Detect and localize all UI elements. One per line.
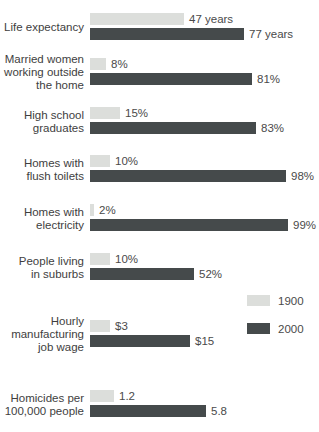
bar-chart-figure: Life expectancy47 years77 yearsMarried w… xyxy=(0,0,319,432)
category-label: Married womenworking outsidethe home xyxy=(0,59,84,86)
bar-value-label: 8% xyxy=(111,58,128,70)
bar-2000 xyxy=(90,405,206,417)
category-label-line: Homicides per xyxy=(0,392,84,405)
bar-value-label: 2% xyxy=(99,204,116,216)
category-label-line: graduates xyxy=(0,122,84,135)
bar-2000 xyxy=(90,268,194,280)
category-label-line: High school xyxy=(0,109,84,122)
category-label-line: job wage xyxy=(0,341,84,354)
bar-row-1900: 47 years xyxy=(90,13,293,25)
category-label: People livingin suburbs xyxy=(0,254,84,281)
bar-1900 xyxy=(90,320,110,332)
legend-label-2000: 2000 xyxy=(278,323,304,335)
bar-value-label: 15% xyxy=(125,107,148,119)
category-label-line: Married women xyxy=(0,53,84,66)
chart-row: Married womenworking outsidethe home8%81… xyxy=(0,58,319,85)
bar-row-2000: $15 xyxy=(90,335,214,347)
chart-row: People livingin suburbs10%52% xyxy=(0,253,319,280)
category-label-line: 100,000 people xyxy=(0,405,84,418)
bar-1900 xyxy=(90,390,114,402)
bar-1900 xyxy=(90,253,110,265)
category-label: Homes withflush toilets xyxy=(0,156,84,183)
legend-item-2000: 2000 xyxy=(247,323,304,334)
chart-row: Life expectancy47 years77 years xyxy=(0,13,319,40)
bar-1900 xyxy=(90,13,184,25)
category-label-line: Homes with xyxy=(0,206,84,219)
bar-value-label: 1.2 xyxy=(119,390,135,402)
legend-label-1900: 1900 xyxy=(278,295,304,307)
category-label: Life expectancy xyxy=(0,14,84,41)
category-label-line: in suburbs xyxy=(0,268,84,281)
bar-value-label: 98% xyxy=(291,170,314,182)
legend-swatch-1900-icon xyxy=(247,295,270,306)
bar-value-label: 99% xyxy=(293,219,316,231)
legend: 1900 2000 xyxy=(247,295,304,351)
bar-pair: 10%98% xyxy=(90,155,314,185)
bar-pair: 1.25.8 xyxy=(90,390,227,420)
bar-value-label: 47 years xyxy=(189,13,233,25)
category-label-line: Life expectancy xyxy=(0,21,84,34)
bar-2000 xyxy=(90,122,256,134)
bar-pair: 47 years77 years xyxy=(90,13,293,43)
bar-1900 xyxy=(90,58,106,70)
bar-row-2000: 52% xyxy=(90,268,222,280)
category-label: Homicides per100,000 people xyxy=(0,391,84,418)
bar-pair: 2%99% xyxy=(90,204,316,234)
category-label-line: Homes with xyxy=(0,157,84,170)
category-label-line: electricity xyxy=(0,219,84,232)
bar-2000 xyxy=(90,73,252,85)
bar-pair: $3$15 xyxy=(90,320,214,350)
category-label: High schoolgraduates xyxy=(0,108,84,135)
category-label-line: flush toilets xyxy=(0,170,84,183)
category-label-line: manufacturing xyxy=(0,328,84,341)
bar-row-2000: 5.8 xyxy=(90,405,227,417)
bar-value-label: $3 xyxy=(115,320,128,332)
chart-row: Homes withflush toilets10%98% xyxy=(0,155,319,182)
bar-2000 xyxy=(90,170,286,182)
bar-pair: 15%83% xyxy=(90,107,284,137)
bar-1900 xyxy=(90,155,110,167)
bar-2000 xyxy=(90,219,288,231)
bar-row-1900: 10% xyxy=(90,253,222,265)
category-label: Hourlymanufacturingjob wage xyxy=(0,321,84,348)
chart-row: Homicides per100,000 people1.25.8 xyxy=(0,390,319,417)
legend-swatch-2000-icon xyxy=(247,323,270,334)
legend-item-1900: 1900 xyxy=(247,295,304,306)
bar-value-label: 5.8 xyxy=(211,405,227,417)
bar-2000 xyxy=(90,28,244,40)
bar-row-1900: 1.2 xyxy=(90,390,227,402)
chart-row: High schoolgraduates15%83% xyxy=(0,107,319,134)
bar-1900 xyxy=(90,107,120,119)
bar-value-label: 83% xyxy=(261,122,284,134)
bar-row-1900: 2% xyxy=(90,204,316,216)
bar-2000 xyxy=(90,335,190,347)
bar-pair: 10%52% xyxy=(90,253,222,283)
category-label-line: Hourly xyxy=(0,315,84,328)
bar-value-label: $15 xyxy=(195,335,214,347)
bar-row-1900: 10% xyxy=(90,155,314,167)
bar-pair: 8%81% xyxy=(90,58,280,88)
bar-value-label: 77 years xyxy=(249,28,293,40)
bar-row-2000: 77 years xyxy=(90,28,293,40)
category-label-line: working outside xyxy=(0,66,84,79)
bar-value-label: 10% xyxy=(115,155,138,167)
chart-row: Homes withelectricity2%99% xyxy=(0,204,319,231)
bar-row-2000: 83% xyxy=(90,122,284,134)
bar-row-2000: 99% xyxy=(90,219,316,231)
category-label-line: People living xyxy=(0,255,84,268)
bar-value-label: 52% xyxy=(199,268,222,280)
bar-1900 xyxy=(90,204,94,216)
bar-value-label: 81% xyxy=(257,73,280,85)
bar-row-1900: $3 xyxy=(90,320,214,332)
bar-row-1900: 15% xyxy=(90,107,284,119)
bar-row-2000: 98% xyxy=(90,170,314,182)
category-label-line: the home xyxy=(0,79,84,92)
category-label: Homes withelectricity xyxy=(0,205,84,232)
bar-row-1900: 8% xyxy=(90,58,280,70)
bar-value-label: 10% xyxy=(115,253,138,265)
bar-row-2000: 81% xyxy=(90,73,280,85)
